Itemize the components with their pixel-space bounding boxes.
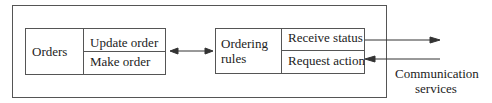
outgoing-arrow-icon	[365, 37, 440, 43]
incoming-arrow-icon	[365, 56, 440, 62]
arrows-layer	[0, 0, 492, 103]
bidirectional-arrow-icon	[170, 48, 213, 54]
